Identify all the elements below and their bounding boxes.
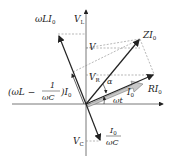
label-RI0: RI0 [147,84,162,95]
projection-lines [58,34,154,141]
label-VL: VL [74,14,85,25]
svg-text:1: 1 [50,81,55,90]
label-VC: VC [73,136,84,147]
svg-text:ωC: ωC [42,93,55,102]
svg-text:(ωL −: (ωL − [8,87,35,97]
label-wLI0: ωLI0 [35,14,56,25]
label-capacitor: I0 ωC [106,126,121,147]
label-V: V [89,42,97,52]
svg-text:ωC: ωC [106,138,119,147]
alpha-arc [103,84,106,93]
label-VR: VR [89,72,101,83]
svg-text:I0: I0 [109,126,117,136]
reactance-phasor [72,74,84,104]
phasor-diagram: ωLI0 VL V ZI0 VR α I0 RI0 ωt (ωL − 1 ωC … [0,0,173,159]
label-alpha: α [107,77,113,86]
label-wt: ωt [113,96,124,105]
label-reactance: (ωL − 1 ωC )I0 [8,81,72,102]
label-ZI0: ZI0 [142,30,157,41]
capacitor-phasor [86,104,100,140]
svg-text:)I0: )I0 [60,87,72,98]
